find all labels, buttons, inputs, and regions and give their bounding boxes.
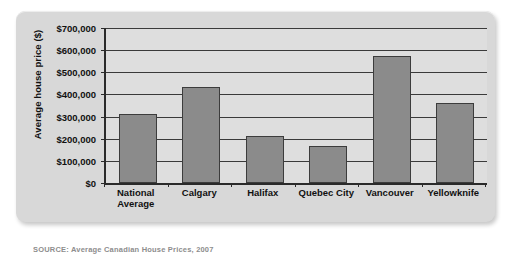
x-tick-label: Quebec City — [295, 187, 359, 209]
y-tick-label: $700,000 — [34, 23, 96, 34]
bar — [119, 114, 157, 183]
y-tick-label: $400,000 — [34, 89, 96, 100]
x-tick-label: Vancouver — [358, 187, 422, 209]
chart-panel: Average house price ($) $0$100,000$200,0… — [16, 11, 495, 222]
bar-slot — [360, 28, 424, 183]
y-axis-tick-labels: $0$100,000$200,000$300,000$400,000$500,0… — [34, 11, 96, 222]
y-tick-label: $200,000 — [34, 133, 96, 144]
y-tick-label: $100,000 — [34, 155, 96, 166]
bar — [182, 87, 220, 183]
x-tick-label: Halifax — [231, 187, 295, 209]
bar-slot — [170, 28, 234, 183]
y-tick-label: $300,000 — [34, 111, 96, 122]
x-axis-tick-labels: National AverageCalgaryHalifaxQuebec Cit… — [104, 187, 485, 209]
bar-series — [106, 28, 487, 183]
bar — [436, 103, 474, 183]
bar — [373, 56, 411, 183]
bar-slot — [233, 28, 297, 183]
bar — [309, 146, 347, 183]
x-tick-label: Calgary — [168, 187, 232, 209]
y-tick-label: $500,000 — [34, 67, 96, 78]
plot-area — [104, 28, 487, 185]
bar-slot — [424, 28, 488, 183]
bar — [246, 136, 284, 183]
bar-slot — [106, 28, 170, 183]
x-tick-mark — [485, 183, 486, 187]
y-tick-label: $0 — [34, 178, 96, 189]
bar-slot — [297, 28, 361, 183]
x-tick-label: National Average — [104, 187, 168, 209]
figure-caption: SOURCE: Average Canadian House Prices, 2… — [33, 245, 214, 254]
x-tick-label: Yellowknife — [422, 187, 486, 209]
y-tick-label: $600,000 — [34, 45, 96, 56]
